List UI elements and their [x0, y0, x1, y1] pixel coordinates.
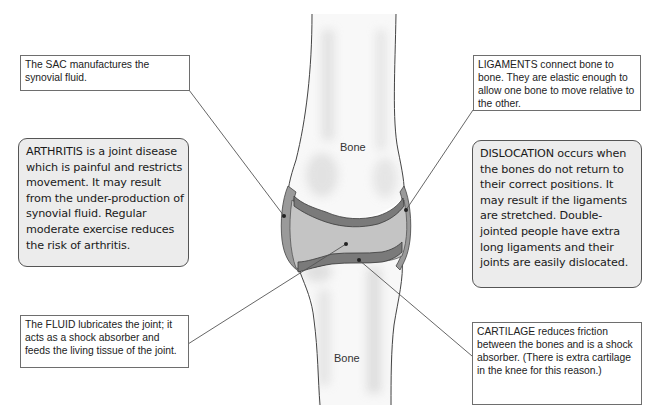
fluid-callout-text: The FLUID lubricates the joint; it acts … — [25, 319, 177, 356]
fluid-callout: The FLUID lubricates the joint; it acts … — [20, 315, 189, 368]
upper-bone — [288, 14, 404, 218]
upper-bone-label: Bone — [340, 141, 366, 153]
cartilage-callout-text: CARTILAGE reduces friction between the b… — [477, 326, 633, 376]
arthritis-info-box: ARTHRITIS is a joint disease which is pa… — [18, 138, 189, 267]
lower-bone-label: Bone — [334, 352, 360, 364]
dislocation-info-box: DISLOCATION occurs when the bones do not… — [472, 140, 642, 288]
sac-leader — [189, 90, 284, 216]
sac-callout: The SAC manufactures the synovial fluid. — [20, 55, 190, 91]
ligaments-callout-text: LIGAMENTS connect bone to bone. They are… — [478, 59, 634, 109]
ligaments-callout: LIGAMENTS connect bone to bone. They are… — [473, 55, 641, 111]
sac-callout-text: The SAC manufactures the synovial fluid. — [25, 59, 149, 83]
ligament-leader — [406, 110, 473, 210]
dislocation-info-text: DISLOCATION occurs when the bones do not… — [480, 147, 628, 269]
lower-bone — [298, 252, 404, 405]
arthritis-info-text: ARTHRITIS is a joint disease which is pa… — [26, 145, 184, 252]
cartilage-callout: CARTILAGE reduces friction between the b… — [472, 322, 642, 405]
